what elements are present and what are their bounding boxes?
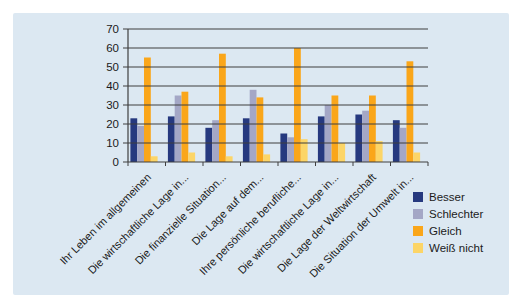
legend-label: Besser bbox=[429, 191, 465, 203]
legend-label: Schlechter bbox=[429, 208, 483, 220]
legend-item-besser: Besser bbox=[413, 191, 483, 203]
chart-panel: 010203040506070Ihr Leben im allgemeinenD… bbox=[13, 13, 509, 295]
legend-swatch-icon bbox=[413, 209, 423, 219]
bar-schlechter bbox=[287, 137, 294, 162]
bar-wei-nicht bbox=[376, 141, 383, 162]
y-axis-tick-label: 20 bbox=[106, 118, 119, 130]
bar-gleich bbox=[219, 54, 226, 162]
bar-wei-nicht bbox=[413, 153, 420, 163]
bar-schlechter bbox=[362, 111, 369, 162]
bar-gleich bbox=[182, 92, 189, 162]
bar-wei-nicht bbox=[151, 156, 158, 162]
bar-gleich bbox=[144, 58, 151, 163]
bar-besser bbox=[393, 120, 400, 162]
bar-besser bbox=[280, 134, 287, 163]
y-axis-tick-label: 50 bbox=[106, 61, 119, 73]
y-axis-tick-label: 60 bbox=[106, 42, 119, 54]
x-axis-category-label: Die Lage auf dem... bbox=[189, 171, 265, 247]
bar-gleich bbox=[407, 61, 414, 162]
bar-besser bbox=[205, 128, 212, 162]
bar-schlechter bbox=[400, 128, 407, 162]
legend-swatch-icon bbox=[413, 192, 423, 202]
bar-wei-nicht bbox=[188, 153, 195, 163]
bar-besser bbox=[355, 115, 362, 163]
bar-schlechter bbox=[212, 120, 219, 162]
y-axis-tick-label: 70 bbox=[106, 23, 119, 35]
bar-besser bbox=[318, 116, 325, 162]
bar-besser bbox=[130, 118, 137, 162]
bar-schlechter bbox=[137, 126, 144, 162]
bar-wei-nicht bbox=[338, 143, 345, 162]
legend-swatch-icon bbox=[413, 226, 423, 236]
legend-item-wei-nicht: Weiß nicht bbox=[413, 242, 483, 254]
y-axis-tick-label: 0 bbox=[113, 156, 119, 168]
bar-gleich bbox=[257, 97, 264, 162]
legend-label: Gleich bbox=[429, 225, 462, 237]
legend-label: Weiß nicht bbox=[429, 242, 483, 254]
bar-wei-nicht bbox=[263, 154, 270, 162]
bar-besser bbox=[243, 118, 250, 162]
y-axis-tick-label: 30 bbox=[106, 99, 119, 111]
bar-schlechter bbox=[250, 90, 257, 162]
bar-wei-nicht bbox=[226, 156, 233, 162]
legend-swatch-icon bbox=[413, 243, 423, 253]
chart-legend: BesserSchlechterGleichWeiß nicht bbox=[413, 191, 483, 254]
y-axis-tick-label: 40 bbox=[106, 80, 119, 92]
legend-item-gleich: Gleich bbox=[413, 225, 483, 237]
legend-item-schlechter: Schlechter bbox=[413, 208, 483, 220]
y-axis-tick-label: 10 bbox=[106, 137, 119, 149]
bar-schlechter bbox=[325, 105, 332, 162]
bar-besser bbox=[168, 116, 175, 162]
